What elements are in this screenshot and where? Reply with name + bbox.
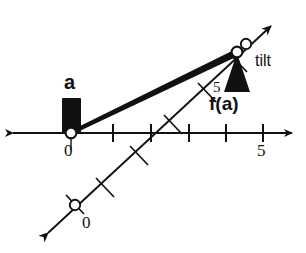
horizontal-axis-group [13,124,292,142]
tilted-origin-label: 0 [82,214,91,231]
tilted-axis-origin-marker [66,195,84,214]
output-expression-label: f(a) [209,94,239,113]
pivot-circle [232,47,243,58]
tilted-axis-ticks [96,53,247,197]
input-variable-label: a [64,72,75,92]
figure-canvas: a 0 5 5 0 f(a) tilt [0,0,306,253]
tilted-axis-value-marker [241,39,251,49]
horizontal-origin-label: 0 [64,142,73,159]
diagram-svg [0,0,306,253]
horizontal-max-tick-label: 5 [257,142,266,159]
tilt-label: tilt [255,53,271,69]
horizontal-axis-origin-circle [66,128,77,139]
